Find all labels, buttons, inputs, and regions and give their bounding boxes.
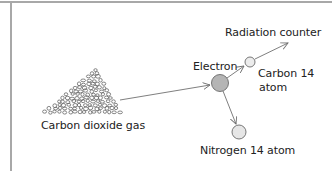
arrow-electron-to-nitrogen14 xyxy=(223,91,236,124)
arrow-carbon14-to-counter xyxy=(255,43,288,59)
label-carbon-dioxide-gas: Carbon dioxide gas xyxy=(41,119,145,132)
arrow-gas-to-electron xyxy=(120,85,210,100)
carbon-dioxide-particles-icon xyxy=(43,69,123,115)
label-radiation-counter: Radiation counter xyxy=(225,26,321,39)
electron-circle-icon xyxy=(212,75,229,92)
nitrogen14-atom-circle-icon xyxy=(232,125,246,139)
label-carbon14-line2: atom xyxy=(259,81,287,94)
label-electron: Electron xyxy=(193,60,237,73)
label-carbon14-line1: Carbon 14 xyxy=(258,67,314,80)
label-nitrogen14-atom: Nitrogen 14 atom xyxy=(200,144,295,157)
carbon14-atom-circle-icon xyxy=(245,57,255,67)
